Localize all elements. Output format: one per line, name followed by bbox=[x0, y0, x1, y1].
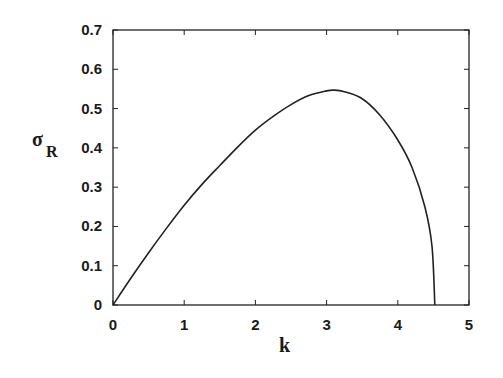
y-axis-label-subscript: R bbox=[46, 143, 58, 160]
y-tick-label: 0.6 bbox=[81, 60, 102, 77]
y-tick-label: 0.3 bbox=[81, 178, 102, 195]
y-axis-ticks: 00.10.20.30.40.50.60.7 bbox=[81, 21, 469, 313]
y-tick-label: 0.5 bbox=[81, 100, 102, 117]
plot-border bbox=[113, 30, 469, 305]
y-tick-label: 0.2 bbox=[81, 217, 102, 234]
x-tick-label: 0 bbox=[109, 316, 117, 333]
sigma-r-curve bbox=[113, 90, 435, 305]
x-tick-label: 2 bbox=[251, 316, 259, 333]
x-tick-label: 3 bbox=[322, 316, 330, 333]
plot-frame bbox=[113, 30, 469, 305]
x-axis-ticks: 012345 bbox=[109, 30, 473, 333]
y-tick-label: 0.1 bbox=[81, 257, 102, 274]
y-tick-label: 0.7 bbox=[81, 21, 102, 38]
x-axis-label: k bbox=[279, 334, 291, 356]
x-tick-label: 4 bbox=[394, 316, 403, 333]
y-tick-label: 0.4 bbox=[81, 139, 103, 156]
chart: 012345 00.10.20.30.40.50.60.7 k σ R bbox=[0, 0, 503, 378]
x-tick-label: 1 bbox=[180, 316, 188, 333]
y-tick-label: 0 bbox=[94, 296, 102, 313]
y-axis-label: σ bbox=[32, 128, 43, 150]
x-tick-label: 5 bbox=[465, 316, 473, 333]
